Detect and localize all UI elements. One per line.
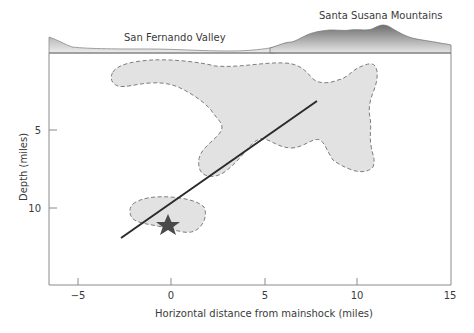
topography-profile: [49, 25, 451, 53]
aftershock-zone: [111, 60, 377, 233]
x-tick-label-0: 0: [168, 290, 174, 301]
y-axis-ticks: [49, 130, 57, 208]
x-tick-label-neg5: −5: [71, 290, 86, 301]
x-tick-label-5: 5: [262, 290, 268, 301]
x-tick-label-10: 10: [351, 290, 364, 301]
y-axis-label: Depth (miles): [18, 133, 29, 201]
mountain-terrain: [270, 25, 451, 53]
fault-plane-line: [121, 101, 317, 238]
y-tick-label-5: 5: [35, 125, 41, 136]
x-axis-ticks: [78, 278, 357, 285]
label-san-fernando-valley: San Fernando Valley: [124, 32, 226, 43]
y-tick-label-10: 10: [28, 203, 41, 214]
x-tick-label-15: 15: [444, 290, 457, 301]
aftershock-zone-main: [111, 60, 377, 177]
label-santa-susana-mountains: Santa Susana Mountains: [319, 10, 443, 21]
x-axis-label: Horizontal distance from mainshock (mile…: [155, 308, 373, 319]
aftershock-cross-section-diagram: San Fernando Valley Santa Susana Mountai…: [0, 0, 474, 333]
